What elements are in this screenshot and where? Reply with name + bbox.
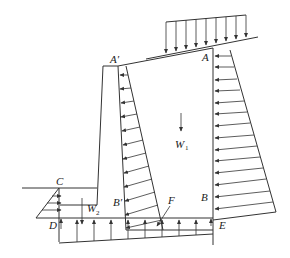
wall-body [60, 48, 213, 245]
active-earth-pressure [213, 50, 276, 220]
label-W1: W [175, 138, 185, 150]
inner-earth-pressure [120, 66, 163, 230]
retaining-wall-diagram: A′ A B B′ C D E F W 1 W 2 [0, 0, 290, 258]
label-E: E [218, 219, 226, 231]
label-F: F [167, 194, 175, 206]
label-B: B [201, 191, 208, 203]
label-C: C [56, 175, 64, 187]
label-D: D [48, 219, 57, 231]
label-A-prime: A′ [109, 53, 120, 65]
passive-pressure [22, 188, 97, 242]
reaction-F [157, 206, 170, 226]
label-W2-subscript: 2 [96, 209, 100, 217]
label-B-prime: B′ [113, 196, 123, 208]
label-A: A [201, 51, 209, 63]
label-W1-subscript: 1 [185, 144, 189, 152]
